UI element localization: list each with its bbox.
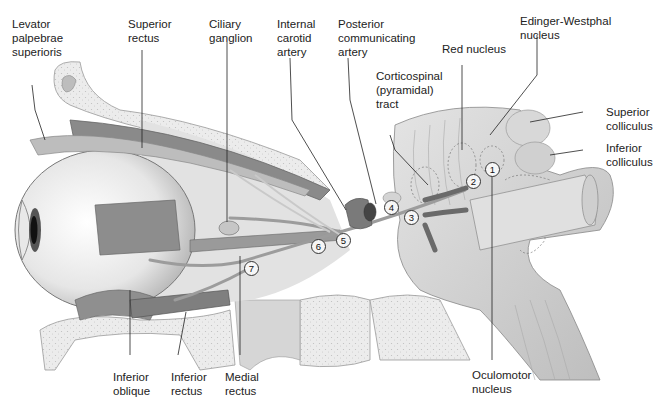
- label-corticospinal-tract: Corticospinal (pyramidal) tract: [376, 69, 442, 111]
- marker-7: 7: [244, 261, 259, 276]
- label-medial-rectus: Medial rectus: [225, 370, 259, 398]
- marker-5: 5: [336, 233, 351, 248]
- illustration: [0, 0, 663, 403]
- label-inferior-colliculus: Inferior colliculus: [606, 141, 653, 169]
- label-posterior-communicating-artery: Posterior communicating artery: [338, 17, 415, 59]
- label-internal-carotid-artery: Internal carotid artery: [277, 17, 315, 59]
- marker-1: 1: [485, 162, 500, 177]
- marker-3: 3: [404, 210, 419, 225]
- inferior-colliculus-shape: [515, 142, 555, 174]
- label-inferior-oblique: Inferior oblique: [113, 370, 150, 398]
- label-ciliary-ganglion: Ciliary ganglion: [209, 17, 252, 45]
- marker-2: 2: [466, 174, 481, 189]
- label-inferior-rectus: Inferior rectus: [171, 370, 207, 398]
- lateral-muscle: [95, 200, 180, 255]
- orbital-floor-bone: [40, 310, 235, 370]
- label-levator-palpebrae-superioris: Levator palpebrae superioris: [12, 17, 63, 59]
- ciliary-ganglion: [219, 221, 239, 235]
- label-edinger-westphal-nucleus: Edinger-Westphal nucleus: [520, 14, 611, 42]
- marker-6: 6: [311, 239, 326, 254]
- pupil: [31, 216, 38, 244]
- label-superior-rectus: Superior rectus: [128, 17, 171, 45]
- label-red-nucleus: Red nucleus: [442, 42, 506, 56]
- label-superior-colliculus: Superior colliculus: [606, 105, 653, 133]
- marker-4: 4: [384, 200, 399, 215]
- anatomy-diagram: 1 2 3 4 5 6 7 Levator palpebrae superior…: [0, 0, 663, 403]
- label-oculomotor-nucleus: Oculomotor nucleus: [472, 368, 531, 396]
- superior-colliculus-shape: [506, 110, 550, 146]
